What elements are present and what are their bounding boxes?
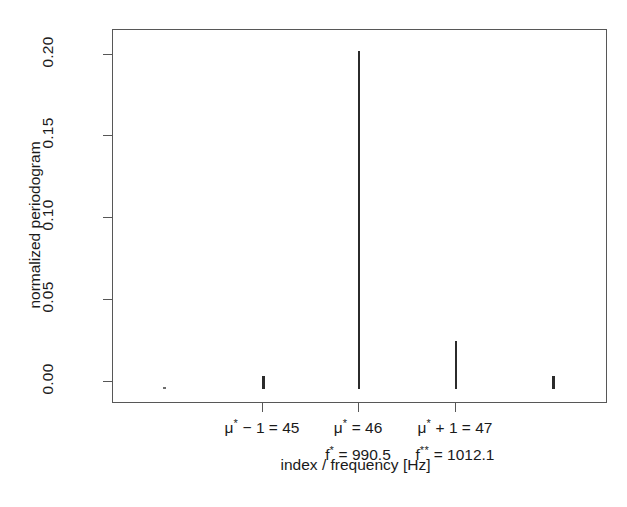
- y-tick-label: 0.20: [0, 43, 96, 61]
- x-tick-frequency-label: f** = 1012.1: [360, 439, 550, 466]
- periodogram-spike-right: [552, 376, 555, 389]
- x-tick-frequency-label: f* = 990.5: [263, 439, 453, 466]
- x-tick-mark: [358, 403, 359, 412]
- x-tick-index-label: μ* = 46: [334, 419, 383, 436]
- periodogram-figure: normalized periodogram index / frequency…: [0, 0, 627, 507]
- y-tick-label: 0.05: [0, 288, 96, 306]
- y-tick-label: 0.15: [0, 124, 96, 142]
- periodogram-spike-46: [358, 51, 360, 389]
- x-tick-index-label: μ* + 1 = 47: [418, 419, 493, 436]
- y-tick-mark: [103, 299, 112, 300]
- periodogram-spike-45: [262, 376, 265, 389]
- x-axis-title: index / frequency [Hz]: [281, 456, 431, 473]
- mu-superscript: *: [233, 417, 238, 429]
- mu-superscript: *: [426, 417, 431, 429]
- y-tick-mark: [103, 135, 112, 136]
- x-tick-label-group: μ* + 1 = 47f** = 1012.1: [360, 412, 550, 466]
- y-tick-mark: [103, 381, 112, 382]
- x-tick-mark: [262, 403, 263, 412]
- y-tick-mark: [103, 54, 112, 55]
- f-superscript: **: [420, 444, 430, 456]
- x-tick-label-group: μ* = 46f* = 990.5: [263, 412, 453, 466]
- periodogram-dot-left: [163, 387, 166, 389]
- mu-superscript: *: [343, 417, 348, 429]
- y-axis-title: normalized periodogram: [26, 120, 44, 330]
- x-tick-mark: [455, 403, 456, 412]
- plot-data-area: [112, 29, 607, 403]
- x-tick-label-group: μ* − 1 = 45: [167, 412, 357, 439]
- x-axis-title-wrap: index / frequency [Hz]: [0, 456, 627, 474]
- periodogram-spike-47: [455, 341, 457, 389]
- f-superscript: *: [330, 444, 335, 456]
- x-tick-index-label: μ* − 1 = 45: [225, 419, 300, 436]
- y-tick-label: 0.10: [0, 206, 96, 224]
- y-tick-label: 0.00: [0, 370, 96, 388]
- y-tick-mark: [103, 217, 112, 218]
